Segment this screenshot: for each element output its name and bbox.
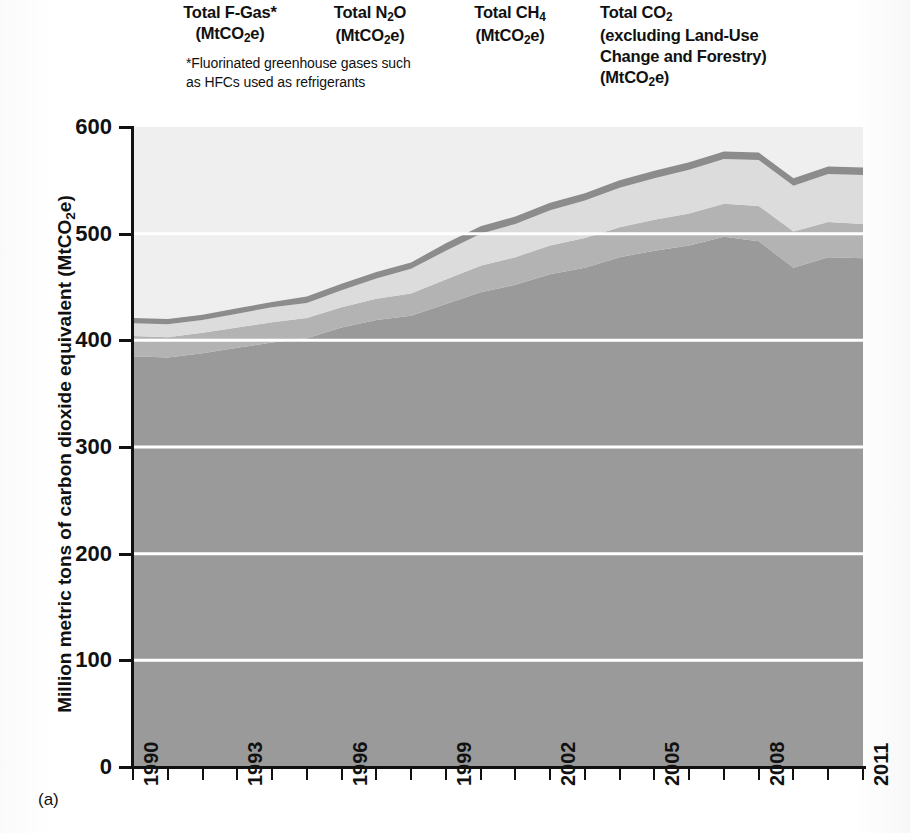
legend-entry-f-gas: Total F-Gas* (MtCO2e): [150, 2, 310, 46]
y-tick-label-400: 400: [40, 329, 112, 351]
panel-label: (a): [38, 790, 59, 810]
x-tick-mark-1995: [306, 769, 308, 780]
x-tick-mark-1990: [132, 769, 134, 780]
x-tick-mark-2000: [480, 769, 482, 780]
x-tick-mark-1999: [445, 769, 447, 780]
y-tick-mark-300: [119, 446, 132, 449]
x-tick-mark-1991: [167, 769, 169, 780]
y-tick-mark-600: [119, 126, 132, 129]
y-tick-label-600: 600: [40, 116, 112, 138]
y-tick-label-300: 300: [40, 436, 112, 458]
x-tick-mark-2004: [619, 769, 621, 780]
x-tick-label-2011: 2011: [871, 743, 891, 786]
x-tick-mark-1998: [410, 769, 412, 780]
y-tick-mark-100: [119, 659, 132, 662]
x-tick-mark-2003: [584, 769, 586, 780]
x-tick-label-2008: 2008: [767, 742, 787, 787]
x-tick-label-2005: 2005: [662, 742, 682, 787]
legend-n2o-line1: Total N2O: [300, 2, 440, 25]
legend-co2-line4: (MtCO2e): [600, 67, 900, 90]
x-tick-mark-2010: [827, 769, 829, 780]
x-tick-label-1996: 1996: [350, 742, 370, 787]
legend-entry-ch4: Total CH4 (MtCO2e): [440, 2, 580, 48]
x-axis-line: [131, 766, 866, 769]
y-tick-mark-0: [119, 766, 132, 769]
x-tick-mark-2009: [792, 769, 794, 780]
x-tick-mark-2008: [758, 769, 760, 780]
legend-co2-line3: Change and Forestry): [600, 46, 900, 67]
y-tick-mark-500: [119, 233, 132, 236]
x-tick-mark-2002: [549, 769, 551, 780]
legend-ch4-line2: (MtCO2e): [440, 25, 580, 48]
x-tick-mark-1992: [202, 769, 204, 780]
legend-n2o-line2: (MtCO2e): [300, 25, 440, 48]
y-tick-mark-200: [119, 553, 132, 556]
x-tick-mark-1993: [236, 769, 238, 780]
x-tick-label-1999: 1999: [454, 742, 474, 787]
x-tick-mark-2011: [862, 769, 864, 780]
legend-footnote-line2: as HFCs used as refrigerants: [186, 73, 586, 92]
x-tick-mark-1996: [341, 769, 343, 780]
x-tick-mark-1994: [271, 769, 273, 780]
legend-footnote-line1: *Fluorinated greenhouse gases such: [186, 54, 586, 73]
legend-co2-line2: (excluding Land-Use: [600, 25, 900, 46]
legend-entry-co2: Total CO2 (excluding Land-Use Change and…: [600, 2, 900, 90]
x-tick-mark-1997: [375, 769, 377, 780]
x-tick-mark-2005: [653, 769, 655, 780]
x-tick-mark-2001: [514, 769, 516, 780]
legend-f-gas-line2: (MtCO2e): [150, 23, 310, 46]
x-tick-label-1990: 1990: [141, 742, 161, 787]
y-tick-label-200: 200: [40, 543, 112, 565]
area-layers: [133, 152, 863, 767]
y-tick-mark-400: [119, 339, 132, 342]
chart-plot-area: [133, 127, 863, 767]
y-tick-label-0: 0: [40, 756, 112, 778]
chart-legend: Total F-Gas* (MtCO2e) Total N2O (MtCO2e)…: [0, 0, 910, 118]
legend-co2-line1: Total CO2: [600, 2, 900, 25]
stacked-area-chart: [133, 127, 863, 767]
legend-f-gas-line1: Total F-Gas*: [150, 2, 310, 23]
chart-plot-clip: [133, 127, 863, 767]
legend-ch4-line1: Total CH4: [440, 2, 580, 25]
x-tick-mark-2006: [688, 769, 690, 780]
y-tick-label-500: 500: [40, 223, 112, 245]
x-tick-mark-2007: [723, 769, 725, 780]
legend-entry-n2o: Total N2O (MtCO2e): [300, 2, 440, 48]
x-tick-label-2002: 2002: [558, 742, 578, 787]
x-tick-label-1993: 1993: [245, 742, 265, 787]
legend-footnote: *Fluorinated greenhouse gases such as HF…: [186, 54, 586, 92]
y-tick-label-100: 100: [40, 649, 112, 671]
